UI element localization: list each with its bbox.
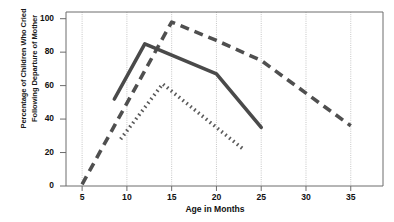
x-axis-label: Age in Months (0, 204, 394, 214)
chart-figure: Percentage of Children Who Cried Followi… (0, 0, 394, 222)
x-axis-label-text: Age in Months (185, 204, 244, 214)
series-line-dotted-series (121, 84, 244, 149)
plot-area (0, 0, 394, 222)
tick-marks (60, 19, 351, 191)
gridlines (82, 12, 351, 186)
